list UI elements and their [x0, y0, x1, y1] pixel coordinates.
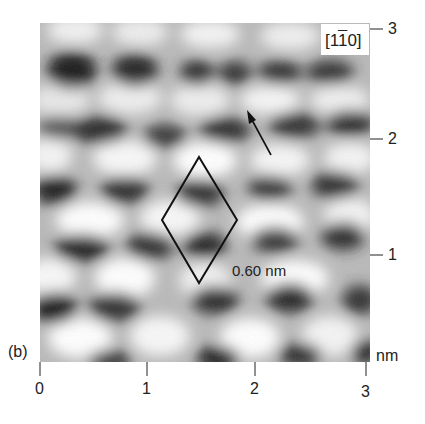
x-tick-2: 2 — [250, 381, 259, 397]
direction-label-close: 0] — [347, 31, 361, 50]
scale-annotation: 0.60 nm — [232, 263, 286, 278]
direction-label-bar: 1 — [338, 31, 347, 50]
image-noise-texture — [40, 23, 370, 362]
direction-label: [110] — [325, 32, 362, 49]
panel-label: (b) — [8, 344, 28, 360]
x-tick-0: 0 — [35, 381, 44, 397]
stm-figure: [110] 0.60 nm (b) nm 3 2 1 0 1 2 3 — [0, 0, 425, 424]
stm-image — [24, 16, 379, 370]
y-tick-3: 3 — [388, 21, 397, 37]
direction-label-open: [1 — [325, 31, 338, 50]
y-tick-2: 2 — [388, 131, 397, 147]
y-tick-1: 1 — [388, 247, 397, 263]
x-tick-3: 3 — [361, 384, 370, 400]
stm-image-canvas — [0, 0, 425, 424]
x-axis-ticks — [40, 362, 366, 376]
unit-label: nm — [376, 348, 398, 364]
x-tick-1: 1 — [142, 381, 151, 397]
y-axis-ticks — [370, 29, 383, 255]
